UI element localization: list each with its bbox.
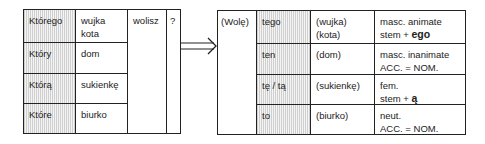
noun-text: (kota) <box>316 28 369 41</box>
note-text: fem. <box>380 79 460 92</box>
note-text: masc. animate <box>380 15 460 28</box>
verb-cell: wolisz <box>128 11 166 30</box>
verb-cell: (Wolę) <box>218 12 256 31</box>
ending-emphasis: ą <box>411 92 417 104</box>
note-text: stem + ą <box>380 92 460 105</box>
note-text: stem + ego <box>380 28 460 41</box>
divider <box>23 103 127 104</box>
noun-cell: biurko <box>76 105 127 124</box>
noun-cell: sukienkę <box>76 75 127 94</box>
demonstrative-cell: tę / tą <box>257 76 310 95</box>
noun-cell: (sukienkę) <box>311 76 374 95</box>
double-arrow-right-icon <box>181 36 219 56</box>
note-text: ACC. = NOM. <box>380 61 460 74</box>
noun-cell: (biurko) <box>311 106 374 125</box>
demonstrative-cell: ten <box>257 45 310 64</box>
grammar-note-cell: masc. animate stem + ego <box>375 12 465 44</box>
demonstrative-cell: tego <box>257 12 310 31</box>
grammar-note-cell: masc. inanimate ACC. = NOM. <box>375 45 465 77</box>
noun-cell: wujka kota <box>76 11 127 43</box>
pronoun-cell: Którą <box>24 75 75 94</box>
noun-cell: (dom) <box>311 45 374 64</box>
noun-text: (wujka) <box>316 15 369 28</box>
pronoun-cell: Którego <box>24 11 75 30</box>
note-text: neut. <box>380 109 460 122</box>
pronoun-cell: Które <box>24 105 75 124</box>
note-text: ACC. = NOM. <box>380 122 460 135</box>
grammar-note-cell: fem. stem + ą <box>375 76 465 108</box>
grammar-note-cell: neut. ACC. = NOM. <box>375 106 465 138</box>
question-mark-cell: ? <box>167 11 180 30</box>
divider <box>23 73 127 74</box>
demonstrative-cell: to <box>257 106 310 125</box>
pronoun-cell: Który <box>24 44 75 63</box>
ending-emphasis: ego <box>411 28 430 40</box>
note-text: masc. inanimate <box>380 48 460 61</box>
noun-cell: (wujka) (kota) <box>311 12 374 44</box>
noun-text: wujka <box>81 14 122 27</box>
noun-cell: dom <box>76 44 127 63</box>
noun-text: kota <box>81 27 122 40</box>
